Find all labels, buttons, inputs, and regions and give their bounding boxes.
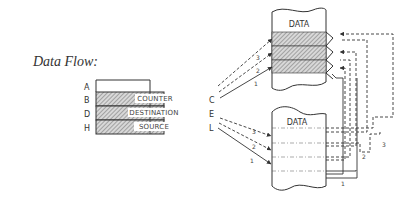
row-label-e: E <box>209 110 214 119</box>
row-label-h: H <box>84 124 90 133</box>
register-name-source: SOURCE <box>139 123 169 131</box>
row-label-b: B <box>84 96 90 105</box>
return-loops: 3 2 1 <box>326 34 393 187</box>
row-label-a: A <box>84 83 90 92</box>
memory-block-top: DATA <box>272 8 333 90</box>
data-flow-diagram: COUNTER DESTINATION SOURCE A B D H C E L… <box>0 0 405 208</box>
top-arrow-number-1: 1 <box>254 80 258 87</box>
row-label-c: C <box>209 96 215 105</box>
row-label-d: D <box>84 110 90 119</box>
row-label-l: L <box>209 124 214 133</box>
memory-top-label: DATA <box>289 20 310 29</box>
top-arrow-number-3: 3 <box>256 54 260 61</box>
arrows-l-to-bottom: 3 2 1 <box>218 118 271 164</box>
memory-bottom-label: DATA <box>287 118 308 127</box>
bottom-arrow-number-2: 2 <box>252 143 256 150</box>
bottom-arrow-number-1: 1 <box>250 157 254 164</box>
memory-block-bottom: DATA <box>272 107 326 190</box>
loop-number-1: 1 <box>341 180 345 187</box>
bottom-arrow-number-3: 3 <box>252 128 256 135</box>
loop-number-3: 3 <box>382 141 386 148</box>
loop-number-2: 2 <box>362 153 366 160</box>
register-name-destination: DESTINATION <box>129 109 178 117</box>
top-arrow-number-2: 2 <box>256 67 260 74</box>
register-name-counter: COUNTER <box>137 95 173 103</box>
arrows-c-to-top: 3 2 1 <box>218 39 272 98</box>
register-block: COUNTER DESTINATION SOURCE A B D H C E L <box>84 80 215 134</box>
